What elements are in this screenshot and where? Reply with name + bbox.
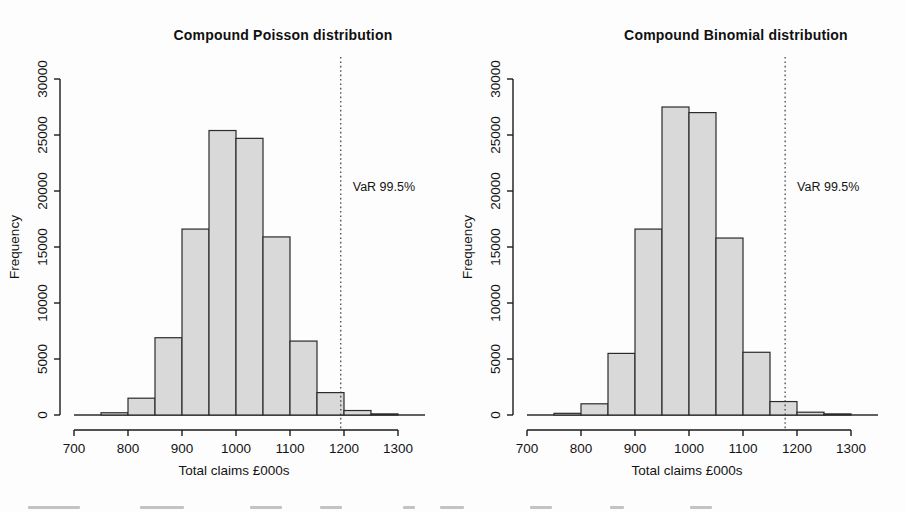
y-axis-tick-label: 5000 (35, 344, 50, 374)
var-annotation-label: VaR 99.5% (797, 180, 859, 194)
y-axis-tick-label: 20000 (488, 172, 503, 210)
x-axis-tick-label: 1200 (782, 441, 812, 456)
histogram-bar (743, 352, 770, 415)
y-axis-tick-label: 10000 (35, 284, 50, 322)
x-axis-tick-label: 1100 (275, 441, 304, 456)
x-axis-tick-label: 800 (117, 441, 140, 456)
x-axis-tick-label: 1100 (728, 441, 757, 456)
x-axis-tick-label: 700 (516, 441, 539, 456)
x-axis-label: Total claims £000s (537, 463, 837, 478)
histogram-bar (371, 414, 398, 415)
y-axis-tick-label: 25000 (488, 116, 503, 154)
histogram-bar (344, 411, 371, 415)
x-axis-tick-label: 900 (171, 441, 194, 456)
y-axis-tick-label: 25000 (35, 116, 50, 154)
y-axis-tick-label: 5000 (488, 344, 503, 374)
histogram-bar (797, 412, 824, 415)
cropped-caption-fragment (0, 506, 906, 512)
histogram-bar (635, 229, 662, 415)
y-axis-tick-label: 15000 (488, 228, 503, 266)
scanned-figure-page: Compound Poisson distribution Frequency … (0, 0, 906, 512)
y-axis-tick-label: 20000 (35, 172, 50, 210)
histogram-bar (608, 353, 635, 415)
histogram-bar (263, 237, 290, 415)
x-axis-tick-label: 800 (570, 441, 593, 456)
histogram-bar (824, 414, 851, 415)
histogram-bar (128, 398, 155, 415)
histogram-plot: 0500010000150002000025000300007008009001… (0, 0, 453, 512)
x-axis-tick-label: 1300 (836, 441, 866, 456)
x-axis-tick-label: 1200 (329, 441, 359, 456)
y-axis-tick-label: 0 (488, 411, 503, 419)
x-axis-tick-label: 1000 (674, 441, 704, 456)
x-axis-tick-label: 700 (63, 441, 86, 456)
histogram-bar (689, 113, 716, 415)
histogram-bar (155, 338, 182, 415)
y-axis-tick-label: 15000 (35, 228, 50, 266)
histogram-plot: 0500010000150002000025000300007008009001… (453, 0, 906, 512)
histogram-bar (317, 393, 344, 415)
histogram-bar (101, 413, 128, 415)
var-annotation-label: VaR 99.5% (353, 180, 415, 194)
x-axis-label: Total claims £000s (84, 463, 384, 478)
chart-panel-compound-binomial: Compound Binomial distribution Frequency… (453, 0, 906, 512)
y-axis-tick-label: 0 (35, 411, 50, 419)
histogram-bar (716, 238, 743, 415)
histogram-bar (290, 341, 317, 415)
histogram-bar (554, 413, 581, 415)
histogram-bar (770, 402, 797, 415)
histogram-bar (581, 404, 608, 415)
x-axis-tick-label: 1300 (383, 441, 413, 456)
chart-panel-compound-poisson: Compound Poisson distribution Frequency … (0, 0, 453, 512)
y-axis-tick-label: 30000 (488, 60, 503, 98)
y-axis-tick-label: 30000 (35, 60, 50, 98)
histogram-bar (182, 229, 209, 415)
x-axis-tick-label: 1000 (221, 441, 251, 456)
histogram-bar (662, 107, 689, 415)
histogram-bar (209, 131, 236, 415)
y-axis-tick-label: 10000 (488, 284, 503, 322)
x-axis-tick-label: 900 (624, 441, 647, 456)
histogram-bar (236, 138, 263, 415)
